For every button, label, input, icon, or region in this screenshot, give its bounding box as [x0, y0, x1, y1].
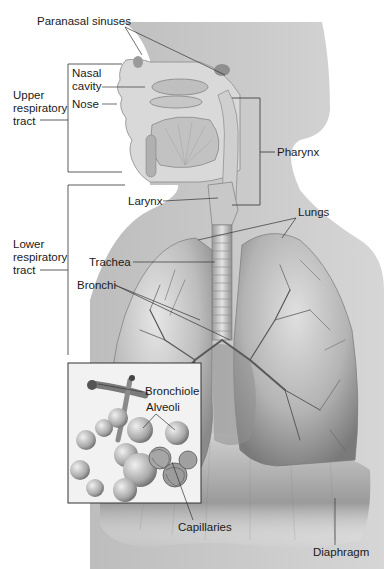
label-bronchi: Bronchi [77, 279, 116, 292]
label-lower-tract-line1: Lower [13, 238, 44, 251]
label-diaphragm: Diaphragm [313, 546, 369, 559]
label-larynx: Larynx [128, 195, 163, 208]
label-nasal-cavity-line1: Nasal [72, 67, 101, 80]
label-pharynx: Pharynx [277, 146, 319, 159]
label-upper-tract-line1: Upper [13, 89, 44, 102]
label-upper-tract-line3: tract [13, 115, 35, 128]
respiratory-diagram [0, 0, 384, 569]
label-upper-tract-line2: respiratory [13, 102, 67, 115]
head-cross-section [117, 56, 240, 200]
label-paranasal-sinuses: Paranasal sinuses [37, 15, 131, 28]
label-lower-tract-line3: tract [13, 264, 35, 277]
label-alveoli: Alveoli [146, 401, 180, 414]
label-capillaries: Capillaries [178, 521, 232, 534]
label-nasal-cavity-line2: cavity [72, 80, 101, 93]
label-lower-tract-line2: respiratory [13, 251, 67, 264]
label-nose: Nose [72, 98, 99, 111]
alveoli-inset [68, 363, 201, 503]
label-bronchiole: Bronchiole [145, 385, 199, 398]
label-lungs: Lungs [298, 206, 329, 219]
label-trachea: Trachea [89, 256, 131, 269]
